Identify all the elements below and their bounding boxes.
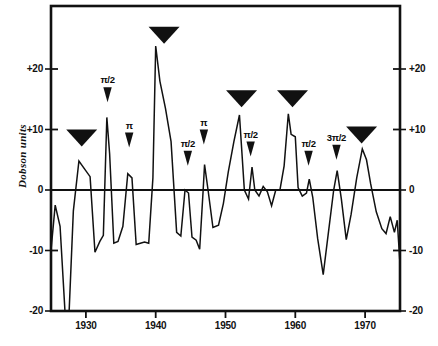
x-tick-label-1930: 1930 bbox=[70, 320, 102, 331]
y-right-tick-label-0: 0 bbox=[409, 184, 438, 195]
y-right-tick-label-minus20: -20 bbox=[409, 305, 438, 316]
x-tick-label-1970: 1970 bbox=[349, 320, 381, 331]
phase-label-6: 3π/2 bbox=[320, 132, 352, 143]
x-tick-label-1940: 1940 bbox=[140, 320, 172, 331]
x-tick-label-1960: 1960 bbox=[279, 320, 311, 331]
y-right-tick-label-plus10: +10 bbox=[409, 124, 438, 135]
ozone-dobson-units-figure: Dobson units 19301940195019601970 -20-10… bbox=[0, 0, 438, 346]
y-left-tick-label-0: 0 bbox=[12, 184, 43, 195]
y-right-tick-label-minus10: -10 bbox=[409, 245, 438, 256]
chart-canvas bbox=[0, 0, 438, 346]
y-left-tick-label-minus20: -20 bbox=[12, 305, 43, 316]
phase-label-2: π/2 bbox=[172, 138, 204, 149]
phase-label-4: π/2 bbox=[235, 129, 267, 140]
y-left-tick-label-plus10: +10 bbox=[12, 124, 43, 135]
y-right-tick-label-plus20: +20 bbox=[409, 63, 438, 74]
y-left-tick-label-plus20: +20 bbox=[12, 63, 43, 74]
x-tick-label-1950: 1950 bbox=[210, 320, 242, 331]
phase-label-0: π/2 bbox=[92, 74, 124, 85]
phase-label-1: π bbox=[113, 120, 145, 131]
data-series-line bbox=[51, 46, 400, 311]
phase-label-3: π bbox=[188, 117, 220, 128]
y-left-tick-label-minus10: -10 bbox=[12, 245, 43, 256]
plot-frame bbox=[51, 6, 400, 311]
